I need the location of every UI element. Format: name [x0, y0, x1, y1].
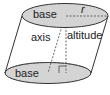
- left-side-edge: [5, 16, 22, 73]
- altitude-label: altitude: [67, 29, 102, 41]
- oblique-cylinder-diagram: base r axis altitude base: [0, 0, 110, 95]
- axis-label: axis: [31, 31, 51, 43]
- bottom-base-label: base: [15, 67, 39, 79]
- top-base-label: base: [33, 8, 57, 20]
